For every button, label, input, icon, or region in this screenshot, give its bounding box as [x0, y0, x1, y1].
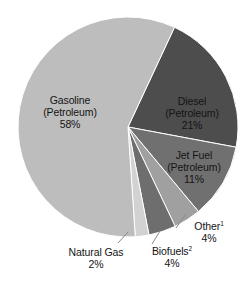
slice-label-other-line1: Other1 — [180, 221, 238, 233]
slice-label-natural-gas: Natural Gas 2% — [50, 247, 142, 271]
footnote-marker-biofuels: 2 — [189, 245, 193, 252]
slice-label-gasoline: Gasoline (Petroleum) 58% — [22, 95, 118, 130]
slice-value-gasoline: 58% — [22, 119, 118, 131]
slice-label-diesel-line1: Diesel — [146, 96, 238, 108]
slice-label-biofuels-line1: Biofuels2 — [136, 246, 208, 258]
slice-value-jet-fuel: 11% — [148, 174, 240, 186]
slice-label-biofuels: Biofuels2 4% — [136, 246, 208, 270]
slice-label-natural-gas-line1: Natural Gas — [50, 247, 142, 259]
slice-value-natural-gas: 2% — [50, 259, 142, 271]
slice-label-diesel: Diesel (Petroleum) 21% — [146, 96, 238, 131]
slice-label-gasoline-line2: (Petroleum) — [22, 107, 118, 119]
slice-label-diesel-line2: (Petroleum) — [146, 108, 238, 120]
slice-value-biofuels: 4% — [136, 258, 208, 270]
footnote-marker-other: 1 — [220, 220, 224, 227]
pie-chart: Gasoline (Petroleum) 58% Diesel (Petrole… — [0, 0, 250, 287]
slice-label-gasoline-line1: Gasoline — [22, 95, 118, 107]
slice-label-jet-fuel: Jet Fuel (Petroleum) 11% — [148, 150, 240, 185]
slice-value-diesel: 21% — [146, 120, 238, 132]
slice-value-other: 4% — [180, 233, 238, 245]
slice-label-other: Other1 4% — [180, 221, 238, 245]
slice-label-jet-fuel-line1: Jet Fuel — [148, 150, 240, 162]
slice-label-jet-fuel-line2: (Petroleum) — [148, 162, 240, 174]
